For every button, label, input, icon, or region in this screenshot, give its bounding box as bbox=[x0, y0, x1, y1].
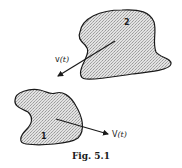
vector-v-label: v(t) bbox=[55, 55, 69, 64]
region-2-label: 2 bbox=[124, 18, 130, 27]
figure-caption: Fig. 5.1 bbox=[0, 151, 182, 161]
figure-canvas: 2 1 v(t) V(t) bbox=[0, 0, 182, 168]
region-1-label: 1 bbox=[41, 132, 47, 141]
region-1-outline bbox=[15, 89, 83, 144]
region-1: 1 bbox=[15, 89, 83, 144]
vector-V-label: V(t) bbox=[112, 130, 127, 139]
region-2: 2 bbox=[79, 10, 171, 79]
